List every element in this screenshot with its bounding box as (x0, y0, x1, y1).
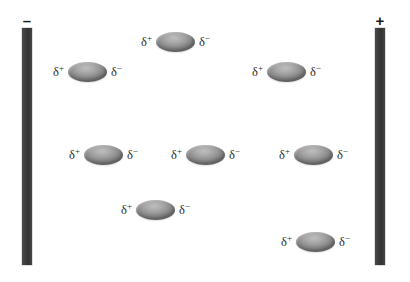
negative-electrode (22, 28, 32, 265)
delta-positive-label: δ+ (121, 204, 132, 217)
delta-negative-label: δ− (111, 66, 122, 79)
molecule-body (186, 145, 225, 165)
delta-positive-label: δ+ (69, 149, 80, 162)
dipole-molecule: δ+ δ− (121, 200, 190, 220)
molecule-body (136, 200, 175, 220)
delta-positive-label: δ+ (281, 236, 292, 249)
delta-positive-label: δ+ (252, 66, 263, 79)
positive-electrode (375, 28, 385, 265)
delta-negative-label: δ− (337, 149, 348, 162)
molecule-body (68, 62, 107, 82)
delta-negative-label: δ− (310, 66, 321, 79)
delta-negative-label: δ− (179, 204, 190, 217)
molecule-body (267, 62, 306, 82)
delta-negative-label: δ− (339, 236, 350, 249)
delta-positive-label: δ+ (53, 66, 64, 79)
molecule-body (156, 32, 195, 52)
dipole-molecule: δ+ δ− (53, 62, 122, 82)
delta-positive-label: δ+ (171, 149, 182, 162)
delta-negative-label: δ− (229, 149, 240, 162)
dipole-molecule: δ+ δ− (252, 62, 321, 82)
dipole-molecule: δ+ δ− (141, 32, 210, 52)
negative-electrode-sign-label: – (22, 13, 32, 28)
molecule-body (84, 145, 123, 165)
dipole-molecule: δ+ δ− (171, 145, 240, 165)
molecule-body (296, 232, 335, 252)
molecule-body (294, 145, 333, 165)
delta-negative-label: δ− (127, 149, 138, 162)
dipole-molecule: δ+ δ− (279, 145, 348, 165)
delta-positive-label: δ+ (279, 149, 290, 162)
delta-negative-label: δ− (199, 36, 210, 49)
delta-positive-label: δ+ (141, 36, 152, 49)
figure-canvas: – + δ+ δ− δ+ δ− δ+ δ− δ+ δ− δ+ δ− δ+ δ− … (0, 0, 410, 282)
dipole-molecule: δ+ δ− (281, 232, 350, 252)
positive-electrode-sign-label: + (375, 13, 385, 28)
dipole-molecule: δ+ δ− (69, 145, 138, 165)
